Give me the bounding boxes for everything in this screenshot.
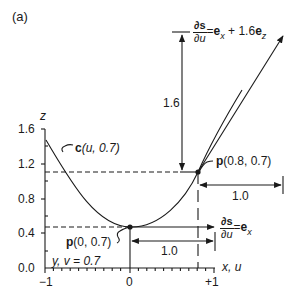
point-label-p0: p(0, 0.7) <box>66 236 111 248</box>
derivative-bottom: ∂s∂u=ex <box>220 216 252 240</box>
panel-label: (a) <box>12 10 28 23</box>
x-tick-0: 0 <box>126 276 133 288</box>
curve-label: c(u, 0.7) <box>75 142 120 154</box>
point-p08 <box>195 169 200 174</box>
leader-curve <box>62 145 73 152</box>
derivative-top: ∂s∂u=ex + 1.6ez <box>193 20 266 44</box>
z-axis-label: z <box>40 110 46 122</box>
diagram-canvas <box>0 0 296 300</box>
x-axis-ticks <box>45 268 214 273</box>
point-label-p08: p(0.8, 0.7) <box>216 155 271 167</box>
dim-run-bottom-label: 1.0 <box>161 245 178 257</box>
x-axis-label: x, u <box>222 261 241 273</box>
z-tick-0.8: 0.8 <box>18 193 35 205</box>
tangent-arrow-ex-1.6ez <box>198 36 283 172</box>
slice-label: y, v = 0.7 <box>52 255 100 267</box>
curve-c <box>46 90 242 227</box>
point-p0 <box>127 224 132 229</box>
z-tick-0.4: 0.4 <box>18 227 35 239</box>
x-tick-minus1: −1 <box>39 276 53 288</box>
dim-run-top-label: 1.0 <box>232 190 249 202</box>
dim-rise-label: 1.6 <box>163 97 180 109</box>
x-tick-plus1: +1 <box>205 276 219 288</box>
z-tick-0.0: 0.0 <box>18 262 35 274</box>
z-tick-1.6: 1.6 <box>18 123 35 135</box>
z-tick-1.2: 1.2 <box>18 158 35 170</box>
leader-p0 <box>117 227 129 243</box>
